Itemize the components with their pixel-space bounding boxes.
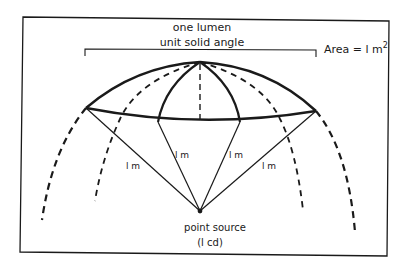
solid-angle-diagram: one lumen unit solid angle Area = l m2 l… xyxy=(0,0,406,266)
patch-meridian-right xyxy=(200,62,240,122)
point-source-intensity: (l cd) xyxy=(197,237,223,248)
point-source-dot xyxy=(198,209,203,214)
radius-label-3: l m xyxy=(229,150,243,160)
patch-top-right-edge xyxy=(200,62,316,111)
outer-sphere-arc-right xyxy=(316,111,355,232)
area-label: Area = l m2 xyxy=(324,41,388,56)
outer-sphere-arc-left xyxy=(42,108,86,220)
radius-label-1: l m xyxy=(126,161,140,171)
patch-meridian-left xyxy=(158,62,200,122)
radius-label-4: l m xyxy=(262,161,276,171)
radius-line-4 xyxy=(200,111,316,211)
inner-sphere-arc-left xyxy=(95,62,200,201)
radius-line-3 xyxy=(200,122,240,211)
area-label-text: Area = l m xyxy=(324,43,383,56)
title-unit-solid-angle: unit solid angle xyxy=(160,36,245,49)
point-source-label: point source xyxy=(184,222,246,233)
radius-label-2: l m xyxy=(175,150,189,160)
area-bracket xyxy=(85,49,316,57)
area-label-superscript: 2 xyxy=(383,41,388,50)
title-one-lumen: one lumen xyxy=(173,21,231,34)
radius-line-2 xyxy=(158,122,200,211)
patch-top-left-edge xyxy=(86,62,200,108)
